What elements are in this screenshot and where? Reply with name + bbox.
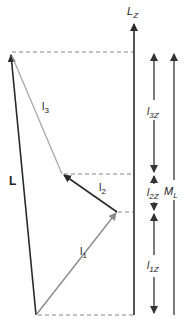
- vector-L-label: L: [9, 174, 16, 188]
- angular-momentum-diagram: LZ L l1 l2 l3 l3Z l2Z l1Z ML: [0, 0, 185, 329]
- vector-l2: [64, 175, 117, 212]
- projection-lines: [12, 52, 134, 315]
- vector-l3: [12, 56, 62, 174]
- vector-l2-label: l2: [99, 181, 106, 196]
- l3z-label: l3Z: [147, 106, 160, 120]
- l2z-label: l2Z: [147, 187, 160, 201]
- vector-l1: [36, 213, 116, 315]
- l1z-label: l1Z: [147, 260, 160, 274]
- lz-axis-label: LZ: [127, 5, 139, 20]
- ml-label: ML: [164, 185, 178, 200]
- vector-l3-label: l3: [42, 100, 49, 115]
- diagram-svg: LZ L l1 l2 l3 l3Z l2Z l1Z ML: [0, 0, 185, 329]
